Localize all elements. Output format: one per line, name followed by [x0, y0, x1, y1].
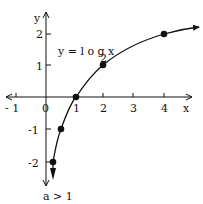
x-tick-label: 3	[130, 102, 137, 115]
x-ticks	[16, 93, 164, 97]
x-tick-labels: - 1 0 1 2 3 4	[5, 102, 168, 115]
y-axis-label: y	[33, 12, 41, 25]
y-tick-label: -1	[28, 124, 39, 137]
y-tick-labels: -2 -1 1 2	[28, 28, 43, 170]
x-tick-label: - 1	[5, 102, 19, 115]
y-ticks	[46, 34, 51, 162]
data-point	[161, 31, 168, 38]
x-axis-label: x	[183, 102, 190, 115]
x-tick-label: 1	[73, 102, 80, 115]
data-point	[100, 62, 107, 69]
x-tick-label: 0	[42, 102, 49, 115]
x-tick-label: 4	[161, 102, 168, 115]
log-graph: - 1 0 1 2 3 4 x -2 -1 1 2 y y = l o g 2 …	[0, 0, 203, 204]
y-tick-label: 1	[36, 60, 43, 73]
function-label-main: y = l o g	[57, 45, 105, 58]
data-point	[73, 94, 80, 101]
curve-down-arrow	[50, 168, 56, 180]
x-tick-label: 2	[100, 102, 107, 115]
data-point	[58, 126, 65, 133]
data-point	[50, 159, 57, 166]
condition-label: a > 1	[43, 190, 73, 203]
y-tick-label: 2	[36, 28, 43, 41]
y-tick-label: -2	[28, 157, 39, 170]
